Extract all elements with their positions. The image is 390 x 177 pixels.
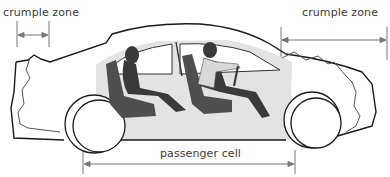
left-crumple-zone-dimension <box>17 21 49 47</box>
passenger-cell-label: passenger cell <box>160 147 241 160</box>
front-crumple-zone-label: crumple zone <box>3 6 79 19</box>
front-wheel <box>284 92 341 148</box>
rear-crumple-zone-label: crumple zone <box>302 6 378 19</box>
rear-crumple-texture <box>18 58 60 132</box>
